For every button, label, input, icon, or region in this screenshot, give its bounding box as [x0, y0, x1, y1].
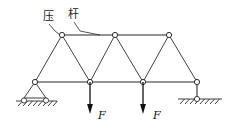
label-member: 杆	[68, 9, 79, 20]
label-compression: 压	[43, 11, 54, 22]
member-leader-line	[74, 22, 100, 35]
load-arrows	[87, 82, 146, 114]
truss-drawing	[0, 0, 230, 130]
member-diagonal-6	[169, 35, 197, 82]
left-roller-support	[21, 82, 48, 103]
label-force-right: F	[153, 110, 161, 121]
joint-bottom-4	[194, 79, 199, 84]
joint-top-middle	[112, 32, 117, 37]
load-arrow-1	[87, 82, 93, 114]
member-diagonal-4	[115, 35, 143, 82]
truss-diagram: 压 杆 F F	[0, 0, 230, 130]
annotation-leaders	[49, 22, 100, 35]
label-force-left: F	[98, 110, 106, 121]
joint-top-left	[59, 32, 64, 37]
joint-top-right	[166, 32, 171, 37]
left-roller-circle-1	[21, 98, 26, 103]
left-roller-circle-2	[43, 98, 48, 103]
compression-leader-line	[49, 24, 60, 35]
right-support-pin-circle	[194, 96, 199, 101]
member-diagonal-2	[62, 35, 90, 82]
load-arrow-2	[140, 82, 146, 114]
member-diagonal-1	[35, 35, 62, 82]
right-ground-hatching	[178, 99, 222, 104]
joint-bottom-1	[32, 79, 37, 84]
web-members	[35, 35, 197, 82]
truss-joints	[32, 32, 199, 84]
member-diagonal-5	[143, 35, 169, 82]
member-diagonal-3	[90, 35, 115, 82]
